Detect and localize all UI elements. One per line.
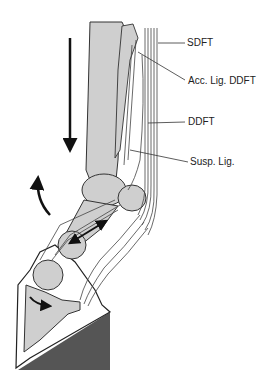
leader-lines — [130, 43, 188, 162]
label-susp-lig: Susp. Lig. — [190, 156, 234, 168]
rotation-arrow — [38, 178, 50, 215]
anatomy-diagram: SDFT Acc. Lig. DDFT DDFT Susp. Lig. — [0, 0, 270, 377]
limb-illustration — [0, 0, 270, 377]
label-sdft: SDFT — [187, 37, 213, 49]
label-acc-lig-ddft: Acc. Lig. DDFT — [188, 75, 256, 87]
label-ddft: DDFT — [188, 116, 215, 128]
short-pastern — [33, 260, 63, 290]
